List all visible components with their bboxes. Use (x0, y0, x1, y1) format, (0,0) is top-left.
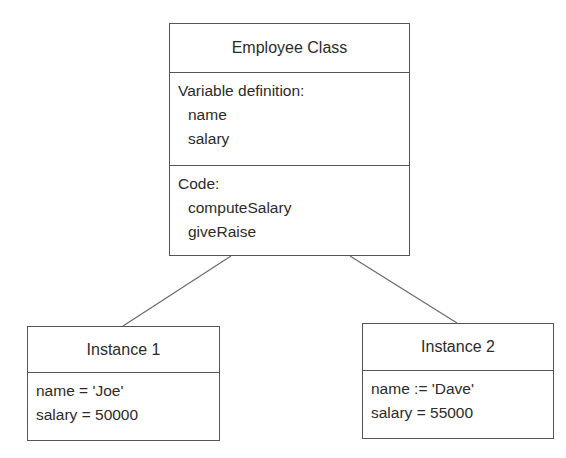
variables-section: Variable definition: name salary (170, 72, 409, 165)
instance-1-box: Instance 1 name = 'Joe' salary = 50000 (27, 326, 220, 441)
variable-name: name (188, 103, 227, 127)
method-give-raise: giveRaise (188, 220, 256, 244)
instance-1-name-field: name = 'Joe' (36, 379, 123, 403)
instance-1-fields-section: name = 'Joe' salary = 50000 (28, 372, 219, 442)
instance-1-salary-field: salary = 50000 (36, 403, 138, 427)
instance-2-box: Instance 2 name := 'Dave' salary = 55000 (362, 323, 554, 439)
method-compute-salary: computeSalary (188, 196, 291, 220)
instance-2-salary-field: salary = 55000 (371, 401, 473, 425)
code-header: Code: (178, 172, 219, 196)
instance-2-title: Instance 2 (421, 338, 495, 355)
connector-class-to-instance-1 (123, 256, 231, 326)
connector-class-to-instance-2 (350, 256, 457, 323)
class-title: Employee Class (232, 39, 348, 56)
instance-2-title-section: Instance 2 (363, 324, 553, 370)
class-title-section: Employee Class (170, 24, 409, 72)
instance-2-name-field: name := 'Dave' (371, 377, 474, 401)
code-section: Code: computeSalary giveRaise (170, 165, 409, 257)
variable-salary: salary (188, 127, 229, 151)
employee-class-box: Employee Class Variable definition: name… (169, 23, 410, 256)
instance-1-title-section: Instance 1 (28, 327, 219, 372)
instance-1-title: Instance 1 (87, 341, 161, 358)
variables-header: Variable definition: (178, 79, 304, 103)
instance-2-fields-section: name := 'Dave' salary = 55000 (363, 370, 553, 440)
